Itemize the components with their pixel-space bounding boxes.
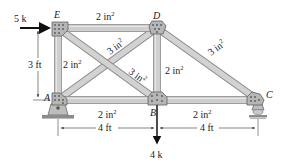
dimension-label-4ft-bc: 4 ft xyxy=(200,122,214,133)
joint-label-D: D xyxy=(152,10,161,21)
load-label-5k: 5 k xyxy=(14,13,27,24)
member-DC xyxy=(157,28,258,100)
support-A-pin xyxy=(42,104,74,119)
load-5k: 5 k xyxy=(14,13,49,28)
joint-B-plate xyxy=(148,92,167,105)
joint-label-E: E xyxy=(53,9,60,20)
member-BC xyxy=(157,97,258,104)
area-label-AB: 2 in2 xyxy=(98,108,117,120)
dimension-4ft-BC: 4 ft xyxy=(160,119,258,136)
support-C-roller xyxy=(249,104,267,119)
dimension-3ft: 3 ft xyxy=(26,31,50,100)
member-AB xyxy=(58,97,157,104)
dimension-4ft-AB: 4 ft xyxy=(58,119,154,136)
area-label-ED: 2 in2 xyxy=(96,10,115,22)
joint-label-A: A xyxy=(43,92,51,103)
joint-D-plate xyxy=(149,21,166,34)
load-label-4k: 4 k xyxy=(150,149,163,160)
joint-label-B: B xyxy=(150,107,156,118)
area-label-BC: 2 in2 xyxy=(193,108,212,120)
member-DB xyxy=(154,28,161,100)
area-label-DC: 3 in2 xyxy=(205,37,227,58)
dimension-label-4ft-ab: 4 ft xyxy=(98,122,112,133)
member-ED xyxy=(58,25,157,32)
area-label-DB: 2 in2 xyxy=(165,64,184,76)
dimension-label-3ft: 3 ft xyxy=(28,59,42,70)
member-EA xyxy=(55,28,62,100)
truss-diagram: 5 k 4 k 3 ft 4 ft 4 ft E D A B C 2 in2 2… xyxy=(0,0,290,166)
joint-C-plate xyxy=(247,92,264,105)
joint-label-C: C xyxy=(266,89,273,100)
area-label-EA: 2 in2 xyxy=(63,58,82,70)
